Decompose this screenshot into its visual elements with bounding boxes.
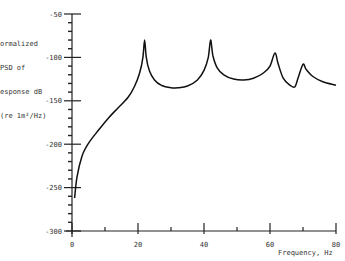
axes: -50-100-150-200-250-300020406080: [45, 11, 340, 250]
y-tick-label: -300: [45, 228, 62, 236]
y-tick-label: -100: [45, 54, 62, 62]
x-tick-label: 0: [70, 241, 74, 249]
y-tick-label: -50: [49, 11, 62, 19]
plot-area: [75, 40, 336, 198]
x-tick-label: 20: [134, 241, 142, 249]
x-tick-label: 80: [332, 241, 340, 249]
y-tick-label: -250: [45, 184, 62, 192]
y-tick-label: -150: [45, 97, 62, 105]
x-tick-label: 60: [266, 241, 274, 249]
psd-curve: [75, 40, 336, 198]
y-tick-label: -200: [45, 141, 62, 149]
psd-line-chart: -50-100-150-200-250-300020406080 Frequen…: [0, 0, 345, 261]
x-axis-label: Frequency, Hz: [278, 249, 333, 257]
x-tick-label: 40: [200, 241, 208, 249]
